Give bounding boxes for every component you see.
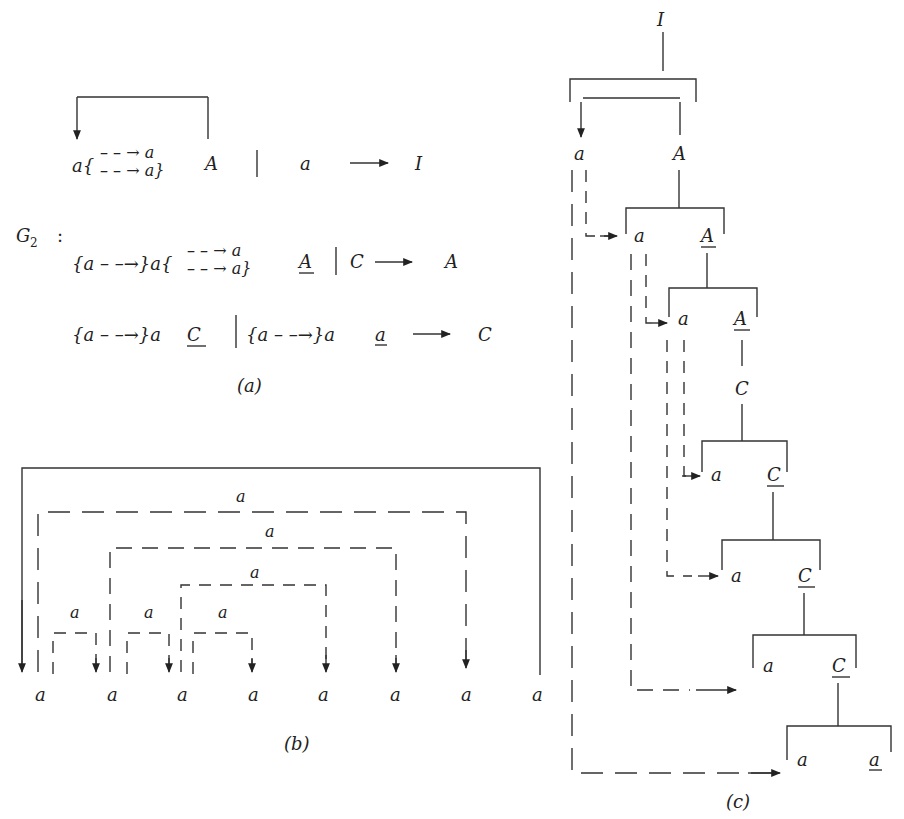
rule1-stack-bottom: – – → a} (100, 161, 164, 180)
rule3-symbol: C (187, 324, 201, 345)
svg-text:a: a (763, 655, 774, 676)
edge-label: a (236, 487, 246, 506)
rule3-prefix: {a – –→}a (72, 324, 161, 345)
svg-text:a: a (731, 565, 742, 586)
svg-text:A: A (699, 225, 714, 246)
panel-b: a a a a a a a a a a a a a a (b) (22, 468, 543, 754)
tree-node-left: a (574, 143, 585, 164)
edge-label: a (265, 522, 275, 541)
rule1-symbol: A (203, 153, 218, 174)
svg-text:a: a (711, 464, 722, 485)
rule-3: {a – –→}a C {a – –→}a a C (72, 315, 492, 348)
outer-link (22, 468, 540, 675)
svg-text:a: a (532, 684, 543, 705)
svg-text:A: A (732, 308, 747, 329)
svg-text:a: a (318, 684, 329, 705)
link-small-1 (53, 633, 96, 674)
rule3-alt2-prefix: {a – –→}a (246, 324, 335, 345)
svg-text:a: a (634, 225, 645, 246)
rule2-stack-top: – – → a (187, 241, 241, 260)
svg-text:2: 2 (30, 236, 38, 250)
link-small-3 (193, 633, 252, 674)
rule1-stack-top: – – → a (100, 143, 154, 162)
rule3-alt2-symbol: a (375, 324, 386, 345)
rule1-lhs: I (414, 153, 423, 174)
svg-text:a: a (177, 684, 188, 705)
grammar-label: G 2 : (16, 225, 63, 250)
panel-a: a{ – – → a – – → a} A a I G 2 : {a – –→}… (16, 97, 492, 396)
svg-text:C: C (735, 378, 749, 399)
link-5 (684, 340, 692, 476)
svg-text:a: a (390, 684, 401, 705)
bottom-symbol-row: a a a a a a a a (35, 684, 543, 705)
rule-1: a{ – – → a – – → a} A a I (72, 143, 423, 180)
svg-text:a: a (248, 684, 259, 705)
figure-canvas: a{ – – → a – – → a} A a I G 2 : {a – –→}… (0, 0, 904, 819)
rule-2: {a – –→}a{ – – → a – – → a} A C A (72, 241, 458, 278)
tree-root: I (656, 9, 665, 30)
svg-text:a: a (678, 308, 689, 329)
link-4 (667, 340, 692, 576)
edge-label: a (218, 603, 228, 622)
link-1 (586, 170, 616, 236)
svg-text::: : (57, 225, 63, 246)
caption-b: (b) (284, 733, 310, 754)
link-long (572, 170, 778, 773)
panel-c: I a A a A a A (570, 9, 891, 812)
rule2-lhs: A (443, 251, 458, 272)
svg-text:G: G (16, 225, 30, 246)
svg-text:a: a (461, 684, 472, 705)
rule1-alt2: a (300, 153, 311, 174)
edge-label: a (144, 603, 154, 622)
link-3 (646, 254, 662, 323)
link-level-3 (181, 585, 326, 672)
edge-label: a (70, 603, 80, 622)
rule2-prefix: {a – –→}a{ (72, 253, 172, 274)
svg-text:a: a (107, 684, 118, 705)
svg-text:C: C (798, 565, 812, 586)
caption-c: (c) (726, 791, 750, 812)
rule3-lhs: C (478, 324, 492, 345)
svg-text:C: C (832, 655, 846, 676)
caption-a: (a) (237, 375, 262, 396)
rule1-bracket (77, 97, 208, 139)
svg-text:C: C (767, 464, 781, 485)
rule2-stack-bottom: – – → a} (187, 259, 251, 278)
rule2-symbol: A (297, 251, 312, 272)
rule2-alt2: C (350, 251, 364, 272)
svg-text:a: a (797, 749, 808, 770)
svg-text:a: a (869, 749, 880, 770)
rule1-prefix: a{ (72, 155, 94, 176)
tree-node-right: A (671, 143, 686, 164)
link-small-2 (127, 633, 169, 674)
svg-text:a: a (35, 684, 46, 705)
edge-label: a (250, 563, 260, 582)
